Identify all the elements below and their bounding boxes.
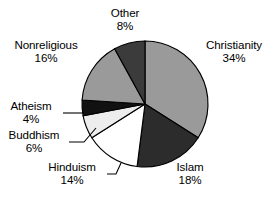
- pie-label-islam: Islam 18%: [163, 160, 217, 187]
- pie-slice-group: [82, 41, 208, 167]
- pie-label-other-name: Other: [93, 6, 157, 19]
- pie-label-hinduism-name: Hinduism: [38, 160, 106, 173]
- pie-label-buddhism-percent: 6%: [0, 141, 68, 154]
- pie-label-islam-percent: 18%: [163, 173, 217, 186]
- pie-label-other: Other 8%: [93, 6, 157, 33]
- pie-label-atheism-name: Atheism: [0, 99, 62, 112]
- pie-label-islam-name: Islam: [163, 160, 217, 173]
- pie-label-atheism: Atheism 4%: [0, 99, 62, 126]
- pie-label-nonreligious-percent: 16%: [6, 51, 86, 64]
- pie-label-christianity: Christianity 34%: [196, 38, 272, 65]
- pie-label-nonreligious-name: Nonreligious: [6, 38, 86, 51]
- pie-label-buddhism: Buddhism 6%: [0, 128, 68, 155]
- pie-label-atheism-percent: 4%: [0, 112, 62, 125]
- pie-label-other-percent: 8%: [93, 19, 157, 32]
- pie-label-nonreligious: Nonreligious 16%: [6, 38, 86, 65]
- pie-label-hinduism: Hinduism 14%: [38, 160, 106, 187]
- pie-label-christianity-name: Christianity: [196, 38, 272, 51]
- pie-label-buddhism-name: Buddhism: [0, 128, 68, 141]
- leader-line-hinduism: [107, 163, 121, 174]
- pie-chart: Other 8% Christianity 34% Nonreligious 1…: [0, 0, 272, 207]
- pie-label-hinduism-percent: 14%: [38, 173, 106, 186]
- pie-label-christianity-percent: 34%: [196, 51, 272, 64]
